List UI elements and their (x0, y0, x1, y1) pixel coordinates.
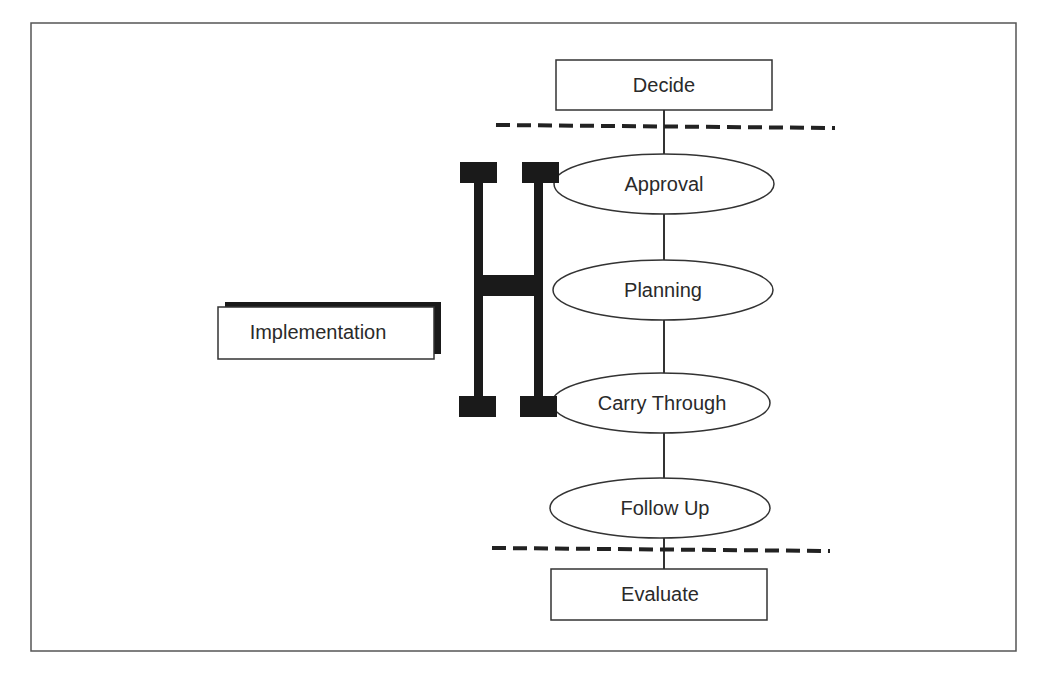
outer-frame (31, 23, 1016, 651)
step-label: Planning (624, 279, 702, 301)
step-follow-up: Follow Up (550, 478, 770, 538)
step-carry-through: Carry Through (552, 373, 770, 433)
evaluate-box: Evaluate (551, 569, 767, 620)
step-approval: Approval (554, 154, 774, 214)
h-bracket-icon (459, 162, 559, 417)
implementation-label: Implementation (250, 321, 387, 343)
implementation-box: Implementation (218, 302, 441, 359)
evaluate-label: Evaluate (621, 583, 699, 605)
step-label: Carry Through (598, 392, 727, 414)
dashed-line-upper (496, 125, 835, 128)
dashed-line-lower (492, 548, 830, 551)
step-label: Follow Up (621, 497, 710, 519)
decide-label: Decide (633, 74, 695, 96)
diagram-canvas: Decide Evaluate Approval Planning Carry … (0, 0, 1049, 673)
step-label: Approval (625, 173, 704, 195)
decide-box: Decide (556, 60, 772, 110)
step-planning: Planning (553, 260, 773, 320)
